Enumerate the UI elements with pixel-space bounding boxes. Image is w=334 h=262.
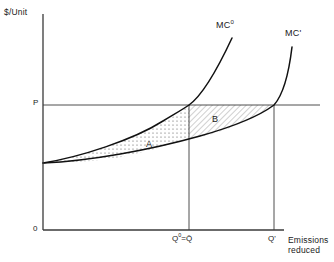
q1-tick-label: Q'	[268, 234, 276, 243]
mc0-superscript: 0	[230, 18, 234, 25]
q0-tick-label: Q0=Q̄	[172, 234, 192, 243]
region-b-shape	[189, 105, 274, 138]
mc1-curve-label: MC'	[285, 28, 301, 38]
mc0-base: MC	[216, 20, 230, 30]
price-level-label: P	[33, 98, 38, 107]
origin-tick-label: 0	[33, 224, 37, 233]
q0-suffix: =Q̄	[181, 234, 192, 243]
region-a-label: A	[146, 139, 152, 149]
marginal-cost-chart: $/Unit Emissions reduced 0 P Q0=Q̄ Q' MC…	[0, 0, 334, 262]
x-axis-label: Emissions reduced	[288, 236, 334, 256]
region-b-label: B	[212, 114, 218, 124]
plot-area	[0, 0, 334, 262]
mc0-curve-label: MC0	[216, 20, 234, 30]
y-axis-label: $/Unit	[4, 8, 27, 18]
